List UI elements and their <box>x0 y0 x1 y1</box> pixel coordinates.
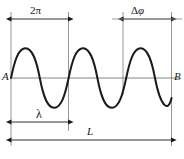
label-phi-symbol: φ <box>138 4 144 16</box>
wave-diagram-figure: 2π Δφ A B λ L <box>0 0 184 159</box>
label-point-a: A <box>2 71 9 82</box>
label-point-b: B <box>174 71 181 82</box>
label-phase-difference: Δφ <box>131 5 144 16</box>
label-period: 2π <box>30 5 41 16</box>
label-total-length: L <box>87 126 93 137</box>
label-wavelength: λ <box>36 108 42 120</box>
